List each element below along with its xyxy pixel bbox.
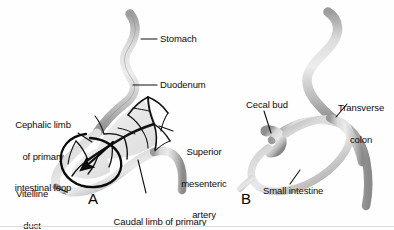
panel-letter-b: B [241, 190, 251, 207]
label-vitelline-duct: Vitelline duct [8, 168, 56, 230]
label-transverse-colon: Transverse colon [330, 82, 392, 166]
ileal-tip-tube [240, 178, 252, 189]
label-small-intestine: Small intestine [263, 186, 323, 197]
label-line: Vitelline [8, 189, 56, 200]
label-line: of primary [6, 152, 80, 163]
label-duodenum: Duodenum [160, 80, 206, 91]
label-line: colon [330, 135, 392, 146]
leader-small-intestine [290, 170, 300, 184]
label-line: Superior [175, 147, 233, 158]
leader-caudal-limb [138, 160, 146, 193]
label-cecal-bud: Cecal bud [246, 100, 288, 111]
label-line: Transverse [330, 103, 392, 114]
label-stomach: Stomach [160, 34, 197, 45]
label-caudal-limb-of-primary-intestinal-loop: Caudal limb of primary intestinal loop [104, 196, 216, 230]
anatomical-figure: Stomach Duodenum Cephalic limb of primar… [0, 0, 394, 230]
label-line: mesenteric [175, 179, 233, 190]
panel-letter-a: A [88, 190, 98, 207]
bottom-rule [0, 226, 394, 227]
label-line: Cephalic limb [6, 120, 80, 131]
